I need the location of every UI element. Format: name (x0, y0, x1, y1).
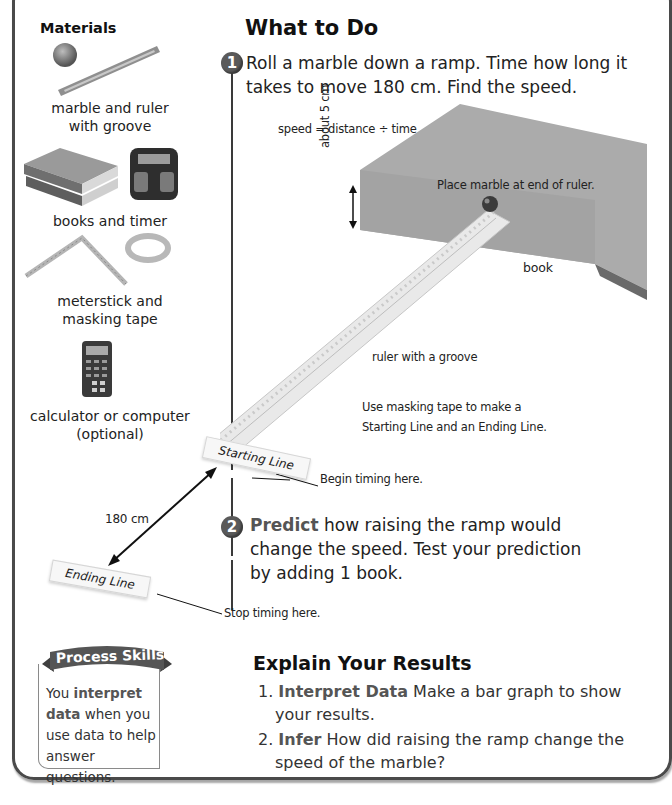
step-1-text: Roll a marble down a ramp. Time how long… (246, 51, 646, 99)
material-caption-books-timer: books and timer (15, 212, 205, 230)
tape-note: Use masking tape to make a Starting Line… (362, 397, 547, 437)
step-number-1: 1 (221, 52, 243, 74)
distance-label: 180 cm (105, 512, 149, 526)
result-question-2: 2. Infer How did raising the ramp change… (258, 728, 638, 774)
what-to-do-title: What to Do (245, 16, 378, 40)
material-caption-marble-ruler: marble and ruler with groove (15, 99, 205, 135)
meterstick-and-tape-icon (22, 232, 172, 290)
stop-timing-label: Stop timing here. (224, 606, 320, 620)
height-label: about 5 cm (318, 85, 332, 148)
begin-timing-label: Begin timing here. (320, 472, 423, 486)
explain-results-title: Explain Your Results (253, 652, 472, 674)
books-and-timer-icon (22, 146, 182, 208)
step-connector-line (231, 560, 233, 610)
step-2-text: Predict how raising the ramp would chang… (250, 513, 640, 585)
ruler-label: ruler with a groove (372, 350, 477, 364)
marble-and-ruler-icon (50, 38, 165, 96)
book-label: book (523, 260, 553, 275)
materials-title: Materials (40, 20, 117, 36)
material-caption-meterstick-tape: meterstick and masking tape (15, 292, 205, 328)
calculator-icon (80, 340, 116, 400)
result-question-1: 1. Interpret Data Make a bar graph to sh… (258, 680, 638, 726)
process-skills-text: You interpret data when you use data to … (46, 683, 156, 788)
material-caption-calculator: calculator or computer (optional) (15, 407, 205, 443)
marble-placement-label: Place marble at end of ruler. (437, 178, 595, 192)
step-number-2: 2 (221, 516, 243, 538)
